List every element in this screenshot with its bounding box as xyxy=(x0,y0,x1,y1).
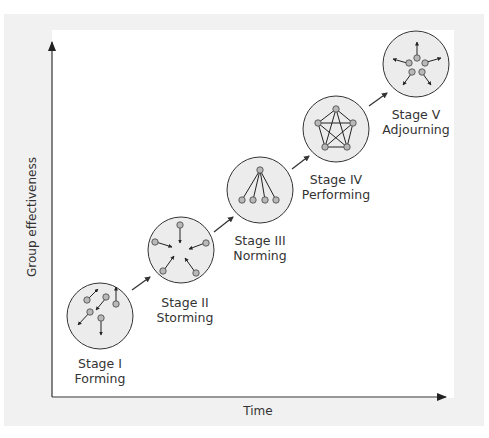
stage-2-title: Storming xyxy=(135,310,235,325)
stage-4-name: Stage IV xyxy=(286,172,386,187)
stage-5-name: Stage V xyxy=(366,107,466,122)
stage-4-label: Stage IV Performing xyxy=(286,172,386,202)
stage-5-title: Adjourning xyxy=(366,122,466,137)
stage-1-label: Stage I Forming xyxy=(50,356,150,386)
stage-3-title: Norming xyxy=(210,248,310,263)
stage-3-norming-icon xyxy=(227,157,293,223)
stage-1-title: Forming xyxy=(50,371,150,386)
stage-2-label: Stage II Storming xyxy=(135,295,235,325)
y-axis-label: Group effectiveness xyxy=(25,147,39,287)
stage-4-title: Performing xyxy=(286,187,386,202)
stage-3-name: Stage III xyxy=(210,233,310,248)
stage-3-label: Stage III Norming xyxy=(210,233,310,263)
stage-4-performing-icon xyxy=(303,96,369,162)
stage-5-adjourning-icon xyxy=(383,31,449,97)
stage-5-label: Stage V Adjourning xyxy=(366,107,466,137)
x-axis-label: Time xyxy=(228,404,288,418)
stage-1-name: Stage I xyxy=(50,356,150,371)
stage-2-storming-icon xyxy=(148,217,214,283)
stage-2-name: Stage II xyxy=(135,295,235,310)
stage-1-forming-icon xyxy=(67,283,133,349)
